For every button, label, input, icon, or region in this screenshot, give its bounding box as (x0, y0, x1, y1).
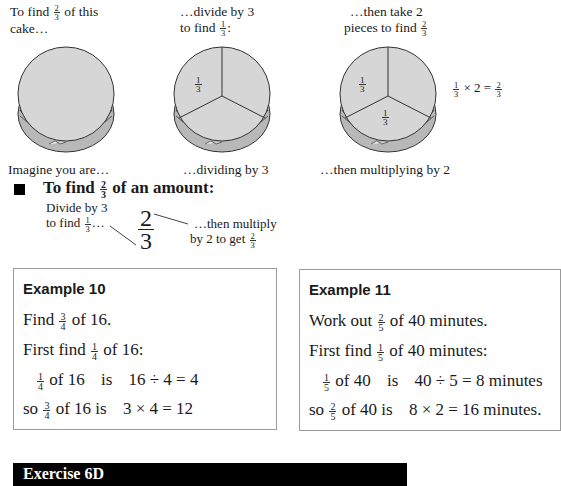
example-line: First find 15 of 40 minutes: (309, 341, 488, 362)
bullet-square-icon (14, 184, 25, 195)
example-line: 15 of 40 is 40 ÷ 5 = 8 minutes (322, 371, 543, 392)
whole-cake-image (14, 44, 118, 156)
example-title: Example 10 (23, 280, 106, 297)
cake-divided-thirds-image (170, 44, 274, 156)
cake3-caption-top: …then take 2 pieces to find 23 (344, 4, 428, 37)
example-line: First find 14 of 16: (23, 340, 143, 361)
rule-heading: To find 23 of an amount: (43, 178, 214, 199)
example-line: 14 of 16 is 16 ÷ 4 = 4 (36, 370, 198, 391)
exercise-title: Exercise 6D (23, 465, 104, 483)
example-title: Example 11 (309, 281, 391, 298)
cake1-caption-top: To find 23 of this cake… (10, 4, 98, 37)
exercise-header-bar: Exercise 6D (13, 463, 407, 486)
cake-two-thirds-image (336, 44, 440, 156)
rule-right-note: …then multiply by 2 to get 23 (190, 216, 277, 249)
fraction: 13 (220, 20, 226, 37)
slice-label: 13 (381, 107, 390, 126)
cake2-caption-top: …divide by 3 to find 13: (180, 4, 254, 37)
example-line: Work out 25 of 40 minutes. (309, 311, 488, 332)
cake3-caption-bottom: …then multiplying by 2 (320, 162, 450, 178)
slice-label: 13 (358, 74, 367, 93)
example-line: Find 34 of 16. (23, 310, 111, 331)
rule-left-note: Divide by 3 to find 13… (46, 200, 107, 233)
big-fraction: 23 (138, 207, 154, 252)
cake-equation: 13 × 2 = 23 (452, 80, 503, 98)
slice-label: 13 (194, 74, 203, 93)
caption-text: To find (10, 4, 49, 19)
example-line: so 34 of 16 is 3 × 4 = 12 (23, 399, 193, 420)
fraction: 23 (54, 4, 60, 21)
fraction: 23 (421, 20, 427, 37)
example-11-box: Example 11 Work out 25 of 40 minutes. Fi… (299, 269, 561, 431)
cake1-caption-bottom: Imagine you are… (8, 162, 109, 178)
cake2-caption-bottom: …dividing by 3 (183, 162, 269, 178)
example-10-box: Example 10 Find 34 of 16. First find 14 … (13, 268, 277, 430)
example-line: so 25 of 40 is 8 × 2 = 16 minutes. (309, 400, 541, 421)
